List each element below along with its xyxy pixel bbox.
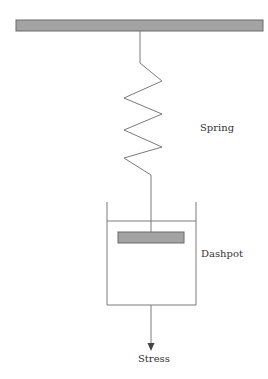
fixed-support-bar	[16, 20, 263, 31]
dashpot-label: Dashpot	[201, 248, 243, 259]
spring-label: Spring	[200, 122, 234, 133]
arrow-down-icon	[148, 343, 155, 351]
stress-label: Stress	[138, 353, 170, 364]
dashpot-piston	[118, 232, 184, 243]
spring-icon	[124, 63, 162, 175]
maxwell-model-diagram	[0, 0, 268, 379]
